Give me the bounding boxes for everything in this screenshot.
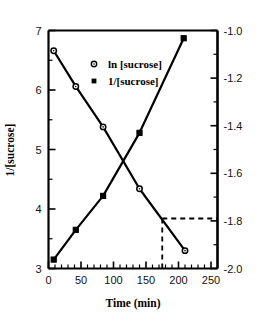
y-left-tick-label: 5 (35, 144, 41, 156)
marker-open-circle-center (139, 188, 141, 190)
marker-filled-square (101, 193, 106, 198)
marker-open-circle-center (53, 50, 55, 52)
y-left-tick-label: 7 (35, 25, 41, 37)
chart-container: 050100150200250 34567 -2.0-1.8-1.6-1.4-1… (0, 0, 267, 325)
marker-filled-square (181, 36, 186, 41)
marker-filled-square (51, 257, 56, 262)
legend-label-2: 1/[sucrose] (108, 75, 159, 87)
legend-marker-open-circle-center (93, 63, 95, 65)
y-right-tick-label: -1.6 (224, 167, 243, 179)
marker-filled-square (73, 227, 78, 232)
plot-background (0, 0, 267, 325)
y-axis-title: 1/[sucrose] (4, 124, 16, 177)
y-right-tick-label: -1.8 (224, 215, 243, 227)
y-right-tick-label: -1.2 (224, 72, 243, 84)
legend-label-1: ln [sucrose] (108, 58, 162, 70)
x-tick-label: 50 (75, 274, 87, 286)
x-tick-label: 150 (137, 274, 155, 286)
marker-open-circle-center (184, 250, 186, 252)
y-right-tick-label: -1.0 (224, 25, 243, 37)
x-tick-label: 200 (169, 274, 187, 286)
x-tick-label: 0 (45, 274, 51, 286)
sucrose-kinetics-plot: 050100150200250 34567 -2.0-1.8-1.6-1.4-1… (0, 0, 267, 325)
y-right-tick-label: -2.0 (224, 263, 243, 275)
legend-marker-filled-square (92, 79, 97, 84)
y-left-tick-label: 6 (35, 84, 41, 96)
y-left-tick-label: 3 (35, 263, 41, 275)
marker-open-circle-center (102, 126, 104, 128)
marker-open-circle-center (75, 86, 77, 88)
x-tick-label: 250 (202, 274, 220, 286)
y-left-tick-label: 4 (35, 203, 41, 215)
marker-filled-square (137, 130, 142, 135)
x-axis-title: Time (min) (105, 297, 160, 310)
x-tick-label: 100 (104, 274, 122, 286)
y-right-tick-label: -1.4 (224, 120, 243, 132)
